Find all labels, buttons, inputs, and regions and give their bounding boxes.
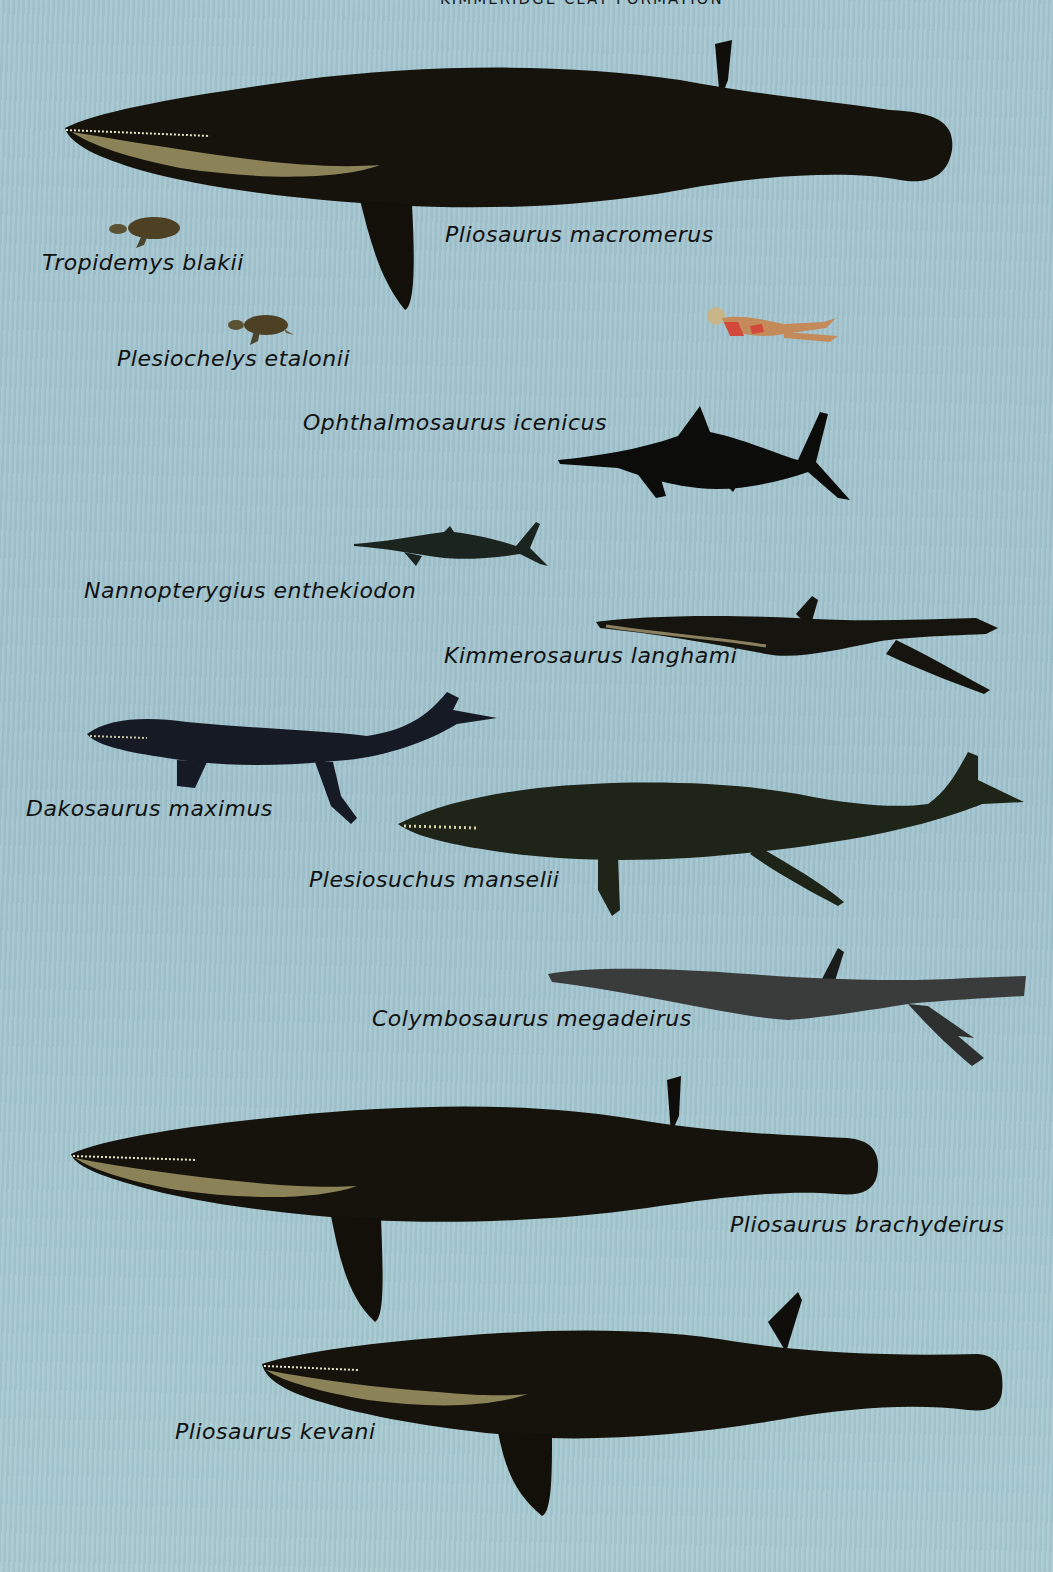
label-pliosaurus-kevani: Pliosaurus kevani: [175, 1419, 376, 1444]
figure-title: KIMMERIDGE CLAY FORMATION: [440, 0, 860, 4]
pliosaurus-brachydeirus-illustration: [67, 1076, 887, 1326]
label-plesiochelys-etalonii: Plesiochelys etalonii: [117, 346, 350, 371]
label-ophthalmosaurus-icenicus: Ophthalmosaurus icenicus: [303, 410, 607, 435]
pliosaurus-kevani-illustration: [258, 1292, 1006, 1522]
label-kimmerosaurus-langhami: Kimmerosaurus langhami: [444, 643, 737, 668]
plesiosuchus-manselii-illustration: [398, 750, 1028, 920]
human-swimmer-scale-figure: [704, 302, 840, 346]
nannopterygius-enthekiodon-illustration: [354, 520, 550, 568]
label-colymbosaurus-megadeirus: Colymbosaurus megadeirus: [372, 1006, 692, 1031]
label-pliosaurus-macromerus: Pliosaurus macromerus: [445, 222, 714, 247]
tropidemys-blakii-illustration: [106, 215, 192, 249]
label-tropidemys-blakii: Tropidemys blakii: [42, 250, 244, 275]
label-pliosaurus-brachydeirus: Pliosaurus brachydeirus: [730, 1212, 1004, 1237]
label-plesiosuchus-manselii: Plesiosuchus manselii: [309, 867, 559, 892]
pliosaurus-macromerus-illustration: [60, 40, 960, 320]
label-nannopterygius-enthekiodon: Nannopterygius enthekiodon: [84, 578, 416, 603]
plesiochelys-etalonii-illustration: [226, 313, 296, 347]
label-dakosaurus-maximus: Dakosaurus maximus: [26, 796, 273, 821]
